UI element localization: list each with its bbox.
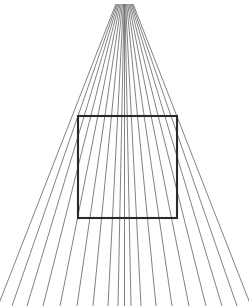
illusion-figure xyxy=(0,0,249,306)
figure-canvas xyxy=(0,0,249,306)
